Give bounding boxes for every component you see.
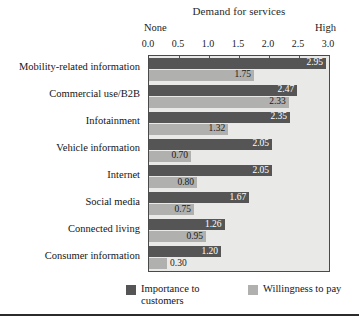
legend-label: Willingness to pay	[263, 283, 341, 295]
bar-value-label: 1.67	[230, 193, 247, 203]
x-tick-label: 0.0	[142, 38, 155, 49]
legend-label: Importance to customers	[141, 283, 227, 307]
x-tick-label: 1.5	[232, 38, 245, 49]
bar-willingness: 0.80	[149, 177, 197, 188]
axis-anchor-high-label: High	[315, 22, 336, 33]
bar-importance: 1.26	[149, 219, 225, 230]
bar-willingness: 1.32	[149, 124, 228, 135]
legend-swatch	[248, 285, 258, 295]
x-tick-label: 1.0	[202, 38, 215, 49]
legend-item: Importance to customers	[126, 283, 227, 307]
category-label: Vehicle information	[56, 143, 140, 154]
chart-title: Demand for services	[148, 5, 330, 17]
bar-value-label: 2.95	[306, 59, 323, 69]
bar-importance: 2.95	[149, 58, 326, 69]
page-bottom-rule	[0, 314, 359, 316]
bar-value-label: 0.80	[177, 178, 194, 188]
axis-anchor-low-label: None	[144, 22, 167, 33]
bar-value-label: 0.95	[186, 232, 203, 242]
category-label: Connected living	[68, 224, 140, 235]
bar-willingness: 2.33	[149, 97, 289, 108]
bar-value-label: 2.47	[278, 86, 295, 96]
category-label: Social media	[85, 197, 140, 208]
bar-willingness: 0.30	[149, 258, 167, 269]
bar-willingness: 0.70	[149, 151, 191, 162]
chart-figure: Demand for services None High 0.00.51.01…	[0, 0, 359, 322]
category-label: Mobility-related information	[19, 62, 140, 73]
bar-value-label: 0.30	[170, 259, 187, 269]
bar-value-label: 0.75	[174, 205, 191, 215]
category-label: Consumer information	[45, 251, 140, 262]
bar-value-label: 1.75	[234, 71, 251, 81]
legend-item: Willingness to pay	[248, 283, 341, 295]
bar-importance: 1.67	[149, 192, 249, 203]
bar-willingness: 0.75	[149, 204, 194, 215]
bar-value-label: 2.05	[252, 139, 269, 149]
x-tick-mark	[329, 56, 330, 60]
bar-importance: 2.35	[149, 112, 290, 123]
plot-area: 2.951.752.472.332.351.322.050.702.050.80…	[148, 55, 330, 272]
chart-legend: Importance to customersWillingness to pa…	[148, 283, 359, 313]
bar-importance: 2.05	[149, 165, 272, 176]
category-label: Commercial use/B2B	[49, 89, 140, 100]
x-tick-label: 0.5	[172, 38, 185, 49]
bar-value-label: 0.70	[171, 151, 188, 161]
x-tick-label: 2.0	[262, 38, 275, 49]
x-tick-label: 3.0	[322, 38, 335, 49]
bar-value-label: 1.32	[209, 124, 226, 134]
legend-swatch	[126, 285, 136, 295]
bar-willingness: 1.75	[149, 70, 254, 81]
bar-value-label: 1.20	[201, 247, 218, 257]
bar-value-label: 2.35	[270, 112, 287, 122]
category-label: Internet	[107, 170, 140, 181]
x-axis-tick-labels: 0.00.51.01.52.02.53.0	[148, 38, 330, 52]
category-label: Infotainment	[86, 116, 140, 127]
bar-importance: 2.05	[149, 139, 272, 150]
category-axis-labels: Mobility-related informationCommercial u…	[0, 55, 144, 272]
axis-anchor-row: None High	[148, 22, 330, 36]
bar-importance: 1.20	[149, 246, 221, 257]
bar-willingness: 0.95	[149, 231, 206, 242]
bar-importance: 2.47	[149, 85, 297, 96]
x-tick-label: 2.5	[292, 38, 305, 49]
bar-value-label: 1.26	[205, 220, 222, 230]
bar-value-label: 2.05	[252, 166, 269, 176]
bar-value-label: 2.33	[269, 98, 286, 108]
